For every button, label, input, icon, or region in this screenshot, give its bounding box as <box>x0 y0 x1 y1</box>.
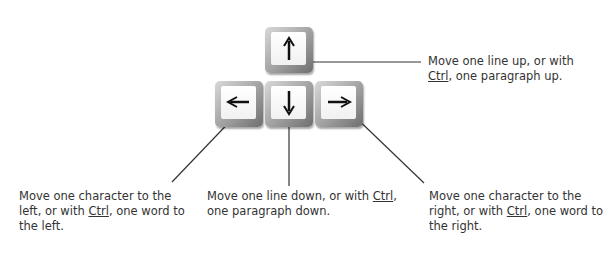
ctrl-key-ref: Ctrl <box>507 204 527 218</box>
down-arrow-key <box>265 81 313 127</box>
down-arrow-icon <box>265 81 313 127</box>
up-arrow-icon <box>265 27 313 73</box>
label-right: Move one character to the right, or with… <box>429 189 607 234</box>
right-arrow-key <box>315 81 363 127</box>
left-arrow-icon <box>215 81 263 127</box>
right-arrow-icon <box>315 81 363 127</box>
ctrl-key-ref: Ctrl <box>428 69 448 83</box>
label-up-text-end: , one paragraph up. <box>448 69 562 83</box>
up-arrow-key <box>265 27 313 73</box>
label-left: Move one character to the left, or with … <box>19 189 189 234</box>
ctrl-key-ref: Ctrl <box>373 189 393 203</box>
ctrl-key-ref: Ctrl <box>88 204 108 218</box>
label-up-text: Move one line up, or with <box>428 54 574 68</box>
label-up: Move one line up, or with Ctrl, one para… <box>428 54 598 84</box>
label-down-text: Move one line down, or with <box>207 189 373 203</box>
label-down: Move one line down, or with Ctrl, one pa… <box>207 189 407 219</box>
left-arrow-key <box>215 81 263 127</box>
